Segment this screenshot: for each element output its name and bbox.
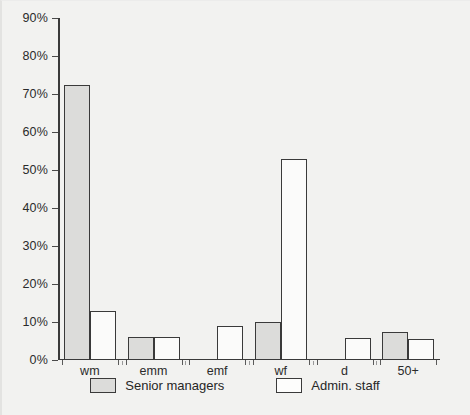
x-tick-d bbox=[317, 360, 318, 365]
x-tick-minor bbox=[185, 361, 186, 365]
y-axis-label: 10% bbox=[22, 315, 48, 329]
y-tick-0% bbox=[52, 360, 58, 361]
y-axis-label: 20% bbox=[22, 277, 48, 291]
x-tick-emm bbox=[182, 360, 183, 365]
y-tick-10% bbox=[52, 322, 58, 323]
y-tick-60% bbox=[52, 132, 58, 133]
chart-legend: Senior managersAdmin. staff bbox=[0, 378, 470, 393]
x-tick-minor bbox=[249, 361, 250, 365]
legend-swatch-icon bbox=[90, 378, 116, 393]
bar-emf-admin-staff bbox=[217, 326, 243, 360]
x-tick-emf bbox=[245, 360, 246, 365]
y-axis-label: 50% bbox=[22, 163, 48, 177]
x-tick-emf bbox=[189, 360, 190, 365]
bar-d-admin-staff bbox=[345, 338, 371, 360]
y-axis-label: 70% bbox=[22, 87, 48, 101]
x-axis-label-wm: wm bbox=[80, 364, 99, 378]
bar-50+-admin-staff bbox=[408, 339, 434, 360]
bar-wm-senior-managers bbox=[64, 85, 90, 361]
y-axis-line bbox=[58, 18, 60, 360]
x-tick-wm bbox=[62, 360, 63, 365]
y-tick-20% bbox=[52, 284, 58, 285]
x-axis-label-50+: 50+ bbox=[398, 364, 419, 378]
x-tick-emm bbox=[126, 360, 127, 365]
x-tick-50+ bbox=[380, 360, 381, 365]
x-tick-minor bbox=[376, 361, 377, 365]
x-axis-label-emm: emm bbox=[140, 364, 168, 378]
y-axis-label: 80% bbox=[22, 49, 48, 63]
y-axis-label: 40% bbox=[22, 201, 48, 215]
bar-chart-figure: 0%10%20%30%40%50%60%70%80%90% wmemmemfwf… bbox=[0, 0, 470, 415]
legend-item-senior-managers[interactable]: Senior managers bbox=[90, 378, 224, 393]
y-tick-40% bbox=[52, 208, 58, 209]
legend-label: Senior managers bbox=[125, 378, 224, 393]
x-tick-wf bbox=[253, 360, 254, 365]
y-axis-label: 30% bbox=[22, 239, 48, 253]
x-tick-wm bbox=[118, 360, 119, 365]
x-axis-label-d: d bbox=[341, 364, 348, 378]
x-tick-50+ bbox=[436, 360, 437, 365]
y-axis-label: 60% bbox=[22, 125, 48, 139]
y-tick-50% bbox=[52, 170, 58, 171]
legend-swatch-icon bbox=[276, 378, 302, 393]
x-tick-minor bbox=[122, 361, 123, 365]
bar-50+-senior-managers bbox=[382, 332, 408, 361]
bar-wf-senior-managers bbox=[255, 322, 281, 360]
y-tick-90% bbox=[52, 18, 58, 19]
x-tick-d bbox=[373, 360, 374, 365]
bar-wf-admin-staff bbox=[281, 159, 307, 360]
y-tick-70% bbox=[52, 94, 58, 95]
x-tick-minor bbox=[313, 361, 314, 365]
x-axis-label-wf: wf bbox=[275, 364, 288, 378]
legend-label: Admin. staff bbox=[311, 378, 379, 393]
y-axis-label: 0% bbox=[30, 353, 48, 367]
bar-wm-admin-staff bbox=[90, 311, 116, 360]
y-tick-30% bbox=[52, 246, 58, 247]
bar-emm-senior-managers bbox=[128, 337, 154, 360]
y-axis-label: 90% bbox=[22, 11, 48, 25]
x-tick-wf bbox=[309, 360, 310, 365]
bar-emm-admin-staff bbox=[154, 337, 180, 360]
legend-item-admin-staff[interactable]: Admin. staff bbox=[276, 378, 379, 393]
plot-area: 0%10%20%30%40%50%60%70%80%90% wmemmemfwf… bbox=[58, 18, 440, 360]
x-axis-label-emf: emf bbox=[207, 364, 228, 378]
y-tick-80% bbox=[52, 56, 58, 57]
